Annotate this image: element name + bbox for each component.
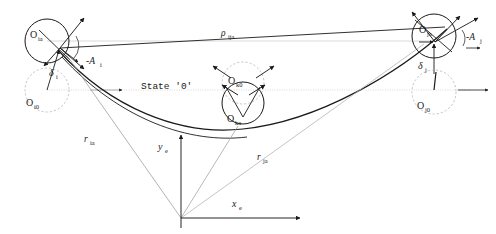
position-vectors <box>61 44 424 218</box>
figure-canvas: O ia O i0 O k0 O ka <box>0 0 496 234</box>
k-vee-right <box>243 87 260 117</box>
r-ja-label: r <box>257 152 261 162</box>
angle-A-i-label: -A <box>86 56 95 66</box>
angle-arc-A-j <box>462 30 465 46</box>
arrow-i-upper-right <box>60 18 84 48</box>
body-i-current-subscript: ia <box>38 35 43 42</box>
angle-A-i-subscript: i <box>100 61 102 68</box>
r-ia-subscript: ia <box>90 139 95 146</box>
r-ja-subscript: ja <box>262 157 268 164</box>
body-k-current-subscript: ka <box>235 119 241 126</box>
kinematics-diagram: O ia O i0 O k0 O ka <box>0 0 496 234</box>
chord-i-to-j <box>60 27 445 48</box>
angle-A-j-label: -A <box>466 32 475 42</box>
body-i-initial-label: O <box>26 97 33 108</box>
delta-i-label: δ <box>49 67 54 78</box>
vector-r-ia <box>61 47 181 218</box>
trajectory-state-a <box>58 29 447 130</box>
body-j-initial-subscript: j0 <box>424 106 430 113</box>
body-i-initial-subscript: i0 <box>34 103 39 110</box>
y-axis-label: y <box>157 141 163 152</box>
annotations: ρ ija State '0' -A i -A j δ i δ j r ia r… <box>49 28 482 164</box>
body-j-initial: O j0 <box>412 70 456 114</box>
angle-A-j-subscript: j <box>479 37 482 44</box>
body-j-initial-label: O <box>417 100 424 111</box>
delta-j-subscript: j <box>424 66 427 73</box>
vector-r-ka <box>181 126 238 218</box>
arrow-k0-upper-left <box>213 66 231 78</box>
x-axis-subscript: e <box>239 204 242 211</box>
trajectory-lower-branch <box>62 57 247 138</box>
arrow-k0-upper-right <box>256 66 274 78</box>
rho-subscript: ija <box>228 33 235 40</box>
delta-j-label: δ <box>418 60 423 71</box>
y-axis-subscript: e <box>165 147 168 154</box>
delta-i-subscript: i <box>56 73 58 80</box>
rho-label: ρ <box>220 28 226 38</box>
r-ia-label: r <box>84 134 88 144</box>
state-label: State '0' <box>141 81 192 92</box>
body-k-current-label: O <box>227 113 234 124</box>
chord-i <box>39 30 70 60</box>
chord-lines <box>39 20 452 60</box>
x-axis-label: x <box>231 198 237 209</box>
j-initial-connector <box>434 72 436 90</box>
vector-r-ja <box>181 44 424 218</box>
body-i-current-label: O <box>30 29 37 40</box>
arrow-i-lower-left <box>44 48 60 66</box>
body-i-current: O ia <box>25 18 84 90</box>
body-k-initial: O k0 <box>213 62 274 104</box>
body-k-current: O ka <box>222 82 265 126</box>
